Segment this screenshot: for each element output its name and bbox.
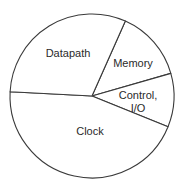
- label-clock: Clock: [76, 125, 104, 137]
- label-control-line2: I/O: [131, 102, 146, 114]
- label-datapath: Datapath: [46, 47, 91, 59]
- label-control-line1: Control,: [119, 89, 158, 101]
- pie-chart: Datapath Memory Control, I/O Clock: [0, 0, 180, 186]
- label-memory: Memory: [113, 57, 153, 69]
